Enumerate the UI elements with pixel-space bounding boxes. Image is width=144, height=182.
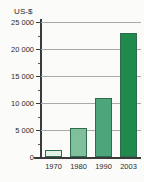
x-axis-line [34,157,141,159]
x-tick-label-1970: 1970 [41,162,66,171]
plot-area [41,22,141,157]
bar-2003 [120,33,137,157]
bar-1980 [70,128,87,157]
y-tick-label-10000: 10 000 [0,99,34,108]
bar-chart: US-$ 25 000 20 000 15 000 10 000 5 000 0… [0,0,144,182]
x-tick-label-2003: 2003 [116,162,141,171]
x-tick-label-1990: 1990 [91,162,116,171]
y-tick-label-15000: 15 000 [0,72,34,81]
bar-1970 [45,150,62,157]
y-tick-label-25000: 25 000 [0,18,34,27]
y-axis-tick-labels: 25 000 20 000 15 000 10 000 5 000 0 [0,0,34,182]
y-tick-label-20000: 20 000 [0,45,34,54]
bar-1990 [95,98,112,157]
x-tick-label-1980: 1980 [66,162,91,171]
y-tick-label-0: 0 [0,153,34,162]
y-tick-label-5000: 5 000 [0,126,34,135]
gridline-25000 [41,22,141,23]
